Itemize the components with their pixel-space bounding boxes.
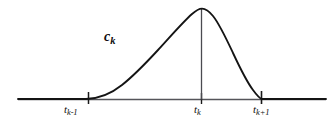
tick-label-subscript: k+1 [256, 107, 269, 117]
tick-label-t-k: tk [194, 104, 201, 117]
tick-label-subscript: k-1 [67, 107, 77, 117]
figure-canvas [0, 0, 336, 130]
curve-label-ck: ck [104, 30, 115, 47]
tick-label-t-k-minus-1: tk-1 [64, 104, 77, 117]
tick-label-subscript: k [197, 107, 201, 117]
basis-function-curve [18, 9, 326, 99]
tick-label-t-k-plus-1: tk+1 [253, 104, 269, 117]
curve-label-subscript: k [110, 35, 115, 46]
bspline-basis-function-figure: ck tk-1 tk tk+1 [0, 0, 336, 130]
